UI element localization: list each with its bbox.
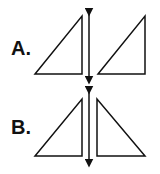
option-a-right-triangle [98,16,145,74]
option-a-figure [35,12,145,80]
option-b-left-triangle [35,99,82,156]
option-a-left-triangle [35,16,82,74]
option-b-right-triangle [97,99,145,156]
option-b-figure [35,90,145,163]
transformation-diagram [0,0,160,174]
